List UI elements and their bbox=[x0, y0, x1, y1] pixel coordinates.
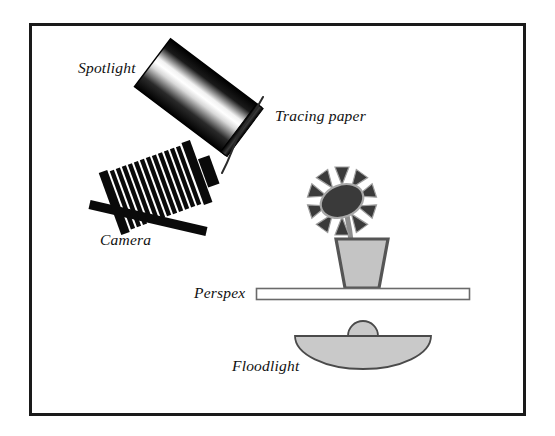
label-camera: Camera bbox=[100, 231, 151, 249]
spotlight-body bbox=[134, 39, 263, 157]
schematic-figure: Spotlight Tracing paper Camera Perspex F… bbox=[0, 0, 555, 436]
perspex-sheet bbox=[257, 289, 470, 300]
flower-plant bbox=[308, 167, 388, 288]
figure-border bbox=[31, 25, 525, 415]
label-floodlight: Floodlight bbox=[232, 357, 299, 375]
floodlight-bulb-arc bbox=[348, 321, 378, 336]
label-perspex: Perspex bbox=[194, 284, 245, 302]
label-spotlight: Spotlight bbox=[78, 59, 136, 77]
label-tracing-paper: Tracing paper bbox=[275, 107, 366, 125]
floodlight-fixture bbox=[295, 321, 431, 369]
floodlight-bowl bbox=[295, 336, 431, 369]
flower-head bbox=[316, 178, 369, 224]
flower-pot bbox=[336, 239, 388, 288]
camera-body bbox=[89, 135, 225, 235]
